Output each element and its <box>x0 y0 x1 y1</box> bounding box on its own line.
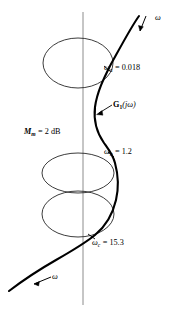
omega-c-value: 15.3 <box>109 238 123 247</box>
figure-canvas <box>0 0 175 313</box>
omega-b-equals: = <box>115 147 120 156</box>
omega-b-label: ωb = 1.2 <box>104 148 132 156</box>
omega-c-subscript: c <box>98 242 100 248</box>
m-peak-label: Mm = 2 dB <box>24 128 60 136</box>
omega-direction-arrowhead-bottom <box>34 282 39 286</box>
omega-a-value: 0.018 <box>122 63 140 72</box>
omega-arrow-bottom-label: ω <box>52 273 58 281</box>
omega-c-label: ωc = 15.3 <box>92 239 124 247</box>
transfer-function-label: G1(jω) <box>113 101 136 109</box>
omega-a-equals: = <box>115 63 120 72</box>
m-peak-subscript: m <box>31 131 35 137</box>
omega-c-equals: = <box>103 238 108 247</box>
omega-b-subscript: b <box>110 151 113 157</box>
omega-b-value: 1.2 <box>122 147 132 156</box>
omega-direction-arrowhead-top <box>139 26 144 32</box>
omega-a-subscript: a <box>110 67 113 73</box>
omega-c-symbol: ω <box>92 238 98 247</box>
m-peak-equals: = <box>38 127 43 136</box>
g1-leader-arrowhead <box>97 111 103 116</box>
m-circle-middle <box>42 153 114 193</box>
omega-a-label: ωa = 0.018 <box>104 64 140 72</box>
omega-a-symbol: ω <box>104 63 110 72</box>
m-peak-unit: dB <box>51 127 61 136</box>
polar-plot-figure: ωa = 0.018 G1(jω) Mm = 2 dB ωb = 1.2 ωc … <box>0 0 175 313</box>
omega-b-symbol: ω <box>104 147 110 156</box>
m-circle-bottom <box>42 191 114 237</box>
m-peak-value: 2 <box>45 127 49 136</box>
omega-arrow-top-label: ω <box>155 14 161 22</box>
transfer-function-subscript: 1 <box>119 104 122 110</box>
transfer-function-argument: (jω) <box>122 100 136 109</box>
